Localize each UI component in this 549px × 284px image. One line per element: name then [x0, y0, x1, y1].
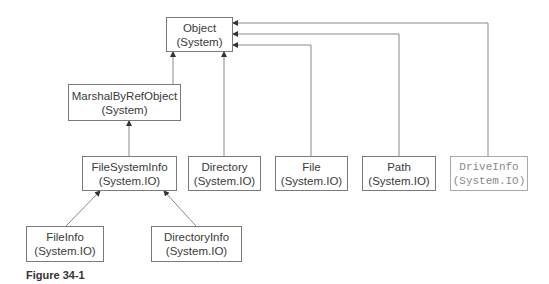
figure-caption: Figure 34-1 — [26, 269, 85, 281]
node-namespace: (System.IO) — [99, 174, 160, 188]
node-name: DriveInfo — [459, 160, 518, 174]
node-object: Object (System) — [166, 17, 233, 52]
node-name: MarshalByRefObject — [72, 89, 177, 103]
node-namespace: (System.IO) — [281, 174, 342, 188]
node-directoryinfo: DirectoryInfo (System.IO) — [151, 226, 242, 262]
node-filesysteminfo: FileSystemInfo (System.IO) — [82, 156, 177, 191]
node-name: FileInfo — [46, 230, 84, 244]
node-namespace: (System.IO) — [34, 244, 95, 258]
node-namespace: (System.IO) — [166, 244, 227, 258]
node-namespace: (System) — [177, 35, 223, 49]
node-namespace: (System) — [102, 103, 148, 117]
node-name: FileSystemInfo — [91, 160, 167, 174]
node-namespace: (System.IO) — [194, 174, 255, 188]
node-marshalbyrefobject: MarshalByRefObject (System) — [68, 84, 181, 121]
node-name: Directory — [201, 160, 247, 174]
node-namespace: (System.IO) — [453, 174, 526, 188]
node-directory: Directory (System.IO) — [188, 156, 261, 191]
edge-file-object — [233, 45, 311, 156]
node-path: Path (System.IO) — [362, 156, 436, 191]
node-name: Path — [387, 160, 411, 174]
edge-driveinfo-object — [233, 23, 488, 156]
node-name: File — [302, 160, 321, 174]
node-driveinfo: DriveInfo (System.IO) — [450, 156, 528, 191]
node-file: File (System.IO) — [275, 156, 348, 191]
node-name: Object — [183, 21, 216, 35]
node-namespace: (System.IO) — [368, 174, 429, 188]
edge-path-object — [233, 34, 399, 156]
edge-fileinfo-filesysteminfo — [66, 191, 100, 226]
node-fileinfo: FileInfo (System.IO) — [26, 226, 104, 262]
edge-directoryinfo-filesysteminfo — [164, 191, 196, 226]
node-name: DirectoryInfo — [164, 230, 229, 244]
